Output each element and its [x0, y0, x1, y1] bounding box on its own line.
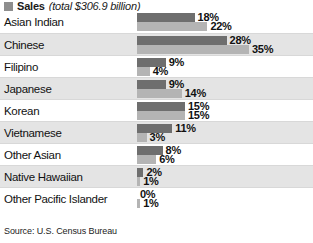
legend-item-label: Sales	[17, 1, 45, 11]
legend-item-total: (total $306.9 billion)	[49, 1, 141, 11]
category-label: Asian Indian	[4, 11, 64, 33]
bar	[137, 45, 249, 54]
bar-group: 9%14%	[137, 78, 313, 99]
chart-plot-area: Asian Indian18%22%Chinese28%35%Filipino9…	[0, 11, 313, 222]
bar-track: 2%	[137, 168, 313, 177]
chart-row: Other Pacific Islander0%1%	[0, 187, 313, 209]
bar-group: 11%3%	[137, 122, 313, 143]
bar-track: 1%	[137, 177, 313, 186]
chart-legend: Sales (total $306.9 billion)	[0, 0, 313, 11]
bar-track: 3%	[137, 133, 313, 142]
bar	[137, 22, 207, 31]
bar-track: 35%	[137, 45, 313, 54]
bar-value-label: 6%	[159, 153, 174, 165]
bar-value-label: 1%	[143, 197, 158, 209]
source-note: Source: U.S. Census Bureau	[4, 226, 117, 236]
bar	[137, 199, 140, 208]
bar	[137, 177, 140, 186]
bar-value-label: 15%	[188, 109, 209, 121]
bar	[137, 102, 185, 111]
bar-track: 4%	[137, 67, 313, 76]
category-label: Vietnamese	[4, 122, 62, 143]
category-label: Japanese	[4, 78, 51, 99]
bar	[137, 67, 150, 76]
bar-track: 6%	[137, 155, 313, 164]
bar-group: 9%4%	[137, 56, 313, 77]
bar-value-label: 1%	[143, 175, 158, 187]
bar-group: 15%15%	[137, 100, 313, 121]
category-label: Chinese	[4, 34, 44, 55]
bar-group: 0%1%	[137, 188, 313, 209]
bar	[137, 155, 156, 164]
bar-value-label: 4%	[153, 65, 168, 77]
bar-value-label: 14%	[185, 87, 206, 99]
bar-value-label: 35%	[252, 43, 273, 55]
bar-track: 0%	[137, 190, 313, 199]
bar-value-label: 3%	[150, 131, 165, 143]
category-label: Native Hawaiian	[4, 166, 83, 187]
bar	[137, 133, 147, 142]
chart-row: Korean15%15%	[0, 99, 313, 121]
bar-track: 28%	[137, 36, 313, 45]
chart-row: Asian Indian18%22%	[0, 11, 313, 33]
sales-share-bar-chart: Sales (total $306.9 billion) Asian India…	[0, 0, 313, 243]
bar-group: 18%22%	[137, 11, 313, 33]
bar-track: 15%	[137, 111, 313, 120]
bar-track: 22%	[137, 22, 313, 31]
chart-row: Native Hawaiian2%1%	[0, 165, 313, 187]
bar	[137, 89, 182, 98]
bar-track: 9%	[137, 80, 313, 89]
chart-row: Chinese28%35%	[0, 33, 313, 55]
legend-swatch-icon	[4, 2, 13, 11]
bar-track: 1%	[137, 199, 313, 208]
bar-group: 8%6%	[137, 144, 313, 165]
category-label: Other Asian	[4, 144, 61, 165]
bar-group: 2%1%	[137, 166, 313, 187]
bar	[137, 80, 166, 89]
category-label: Filipino	[4, 56, 38, 77]
category-label: Korean	[4, 100, 39, 121]
bar	[137, 13, 195, 22]
bar-track: 14%	[137, 89, 313, 98]
chart-row: Filipino9%4%	[0, 55, 313, 77]
category-label: Other Pacific Islander	[4, 188, 107, 209]
chart-row: Vietnamese11%3%	[0, 121, 313, 143]
chart-row: Japanese9%14%	[0, 77, 313, 99]
bar	[137, 36, 227, 45]
bar-track: 15%	[137, 102, 313, 111]
bar	[137, 111, 185, 120]
legend-item-sales: Sales (total $306.9 billion)	[4, 0, 140, 11]
bar-value-label: 22%	[210, 20, 231, 33]
chart-row: Other Asian8%6%	[0, 143, 313, 165]
bar-group: 28%35%	[137, 34, 313, 55]
